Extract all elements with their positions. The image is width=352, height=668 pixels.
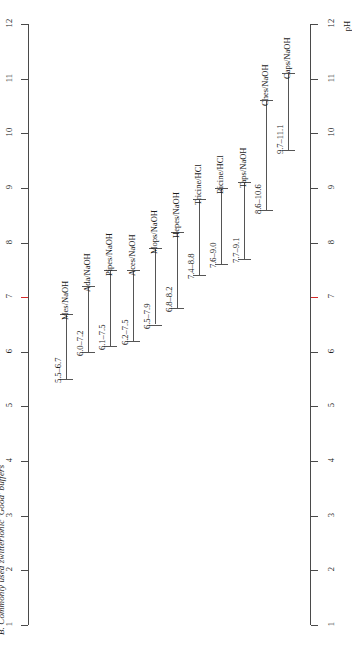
axis-tick-label-6: 6 [326, 340, 336, 362]
axis-tick-3 [21, 516, 28, 517]
axis-tick-12 [311, 24, 318, 25]
axis-tick-11 [21, 79, 28, 80]
axis-tick-label-12: 12 [326, 12, 336, 34]
axis-tick-11 [311, 79, 318, 80]
left-ph-axis [28, 24, 29, 625]
axis-tick-label-3: 3 [326, 504, 336, 526]
buffer-range-label: 7.7–9.1 [231, 207, 241, 263]
axis-tick-label-11: 11 [326, 67, 336, 89]
axis-tick-label-9: 9 [326, 176, 336, 198]
axis-tick-6 [21, 352, 28, 353]
buffer-name-label: Mops/NaOH [149, 184, 159, 254]
axis-tick-label-7: 7 [4, 285, 14, 307]
axis-tick-12 [21, 24, 28, 25]
buffer-range-stem [110, 270, 111, 346]
axis-tick-label-4: 4 [326, 449, 336, 471]
buffer-range-label: 5.5–6.7 [53, 327, 63, 383]
axis-tick-label-6: 6 [4, 340, 14, 362]
axis-tick-label-2: 2 [4, 558, 14, 580]
buffer-name-label: Hepes/NaOH [171, 168, 181, 238]
axis-tick-3 [311, 516, 318, 517]
axis-tick-5 [311, 406, 318, 407]
buffer-name-label: Bicine/HCl [215, 124, 225, 194]
buffer-range-stem [155, 248, 156, 324]
axis-tick-label-10: 10 [326, 121, 336, 143]
axis-tick-label-5: 5 [4, 394, 14, 416]
axis-tick-7 [21, 297, 28, 298]
axis-tick-label-7: 7 [326, 285, 336, 307]
buffer-range-stem [88, 286, 89, 352]
buffer-range-label: 6.1–7.5 [97, 294, 107, 350]
buffer-name-label: Tricine/HCl [193, 135, 203, 205]
axis-tick-label-3: 3 [4, 504, 14, 526]
axis-tick-label-4: 4 [4, 449, 14, 471]
buffer-range-stem [288, 73, 289, 149]
buffer-range-stem [133, 270, 134, 341]
buffer-range-label: 7.4–8.8 [186, 223, 196, 279]
axis-tick-8 [21, 243, 28, 244]
axis-tick-label-11: 11 [4, 67, 14, 89]
axis-tick-label-8: 8 [326, 231, 336, 253]
buffer-range-label: 6.8–8.2 [164, 256, 174, 312]
axis-tick-9 [311, 188, 318, 189]
axis-tick-label-12: 12 [4, 12, 14, 34]
axis-tick-label-2: 2 [326, 558, 336, 580]
buffer-name-label: Caps/NaOH [282, 9, 292, 79]
buffer-name-label: Ches/NaOH [260, 36, 270, 106]
axis-tick-label-10: 10 [4, 121, 14, 143]
buffer-range-label: 6.2–7.5 [120, 289, 130, 345]
buffer-range-label: 6.0–7.2 [75, 300, 85, 356]
axis-tick-4 [21, 461, 28, 462]
buffer-range-label: 7.6–9.0 [208, 212, 218, 268]
buffer-range-stem [244, 182, 245, 258]
axis-tick-8 [311, 243, 318, 244]
buffer-range-stem [266, 100, 267, 209]
buffer-name-label: Aces/NaOH [127, 206, 137, 276]
buffer-range-label: 9.7–11.1 [275, 98, 285, 154]
right-ph-axis [310, 24, 311, 625]
buffer-name-label: Ada/NaOH [82, 222, 92, 292]
axis-tick-4 [311, 461, 318, 462]
axis-tick-9 [21, 188, 28, 189]
axis-tick-label-9: 9 [4, 176, 14, 198]
axis-tick-2 [21, 570, 28, 571]
buffer-range-label: 6.5–7.9 [142, 273, 152, 329]
axis-tick-label-5: 5 [326, 394, 336, 416]
buffer-range-stem [199, 199, 200, 275]
buffer-range-figure: B. Commonly used zwitterionic 'Good' buf… [0, 0, 352, 668]
buffer-range-stem [66, 314, 67, 380]
buffer-range-label: 8.6–10.6 [253, 158, 263, 214]
buffer-name-label: Pipes/NaOH [104, 206, 114, 276]
axis-tick-1 [311, 625, 318, 626]
axis-tick-10 [21, 133, 28, 134]
buffer-name-label: Taps/NaOH [238, 118, 248, 188]
axis-tick-7 [311, 297, 318, 298]
axis-tick-2 [311, 570, 318, 571]
buffer-name-label: Mes/NaOH [60, 250, 70, 320]
axis-tick-5 [21, 406, 28, 407]
axis-tick-1 [21, 625, 28, 626]
axis-tick-10 [311, 133, 318, 134]
ph-axis-title: pH [342, 15, 352, 37]
axis-tick-label-8: 8 [4, 231, 14, 253]
buffer-range-stem [221, 188, 222, 264]
buffer-range-stem [177, 232, 178, 308]
axis-tick-label-1: 1 [4, 613, 14, 635]
axis-tick-label-1: 1 [326, 613, 336, 635]
axis-tick-6 [311, 352, 318, 353]
